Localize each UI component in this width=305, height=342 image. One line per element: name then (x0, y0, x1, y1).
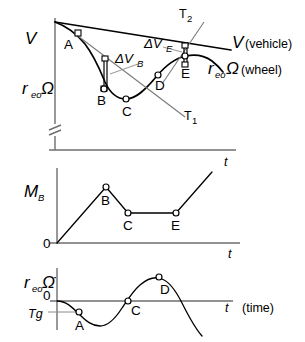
speed-label-A: A (64, 37, 73, 52)
tangent-label-T1-sub: 1 (192, 115, 197, 126)
legend-vehicle-symbol: V (232, 33, 245, 52)
delta-ve-label: ΔV (143, 36, 164, 51)
accel-y-label-r-sub: eo (32, 283, 43, 294)
speed-label-B: B (97, 93, 106, 108)
speed-point-E-marker (182, 53, 188, 59)
brake-torque-panel: M B 0 B C E t (24, 168, 240, 261)
speed-label-D: D (155, 78, 165, 93)
accel-label-A: A (75, 318, 84, 333)
tangent-label-T1: T (184, 109, 192, 123)
speed-point-B-marker (101, 86, 107, 92)
speed-y-label-omega: Ω (41, 79, 54, 98)
torque-point-B-marker (103, 184, 109, 190)
legend-vehicle-paren: (vehicle) (245, 37, 292, 51)
diagram-svg: V r eo Ω t A B C D E T 1 T 2 ΔV B ΔV E V… (0, 0, 305, 342)
torque-y-label-M: M (24, 182, 39, 201)
accel-zero-label: 0 (43, 288, 51, 303)
delta-ve-label-sub: E (166, 43, 173, 54)
speed-x-axis-label: t (224, 155, 228, 169)
speed-point-A-marker (75, 30, 81, 36)
accel-point-D-marker (156, 274, 162, 280)
tangent-label-T2: T (179, 7, 187, 21)
legend-wheel-omega: Ω (226, 59, 239, 78)
speed-y-label-V: V (25, 29, 38, 48)
figure-root: V r eo Ω t A B C D E T 1 T 2 ΔV B ΔV E V… (0, 0, 305, 342)
axis-break-mark-1 (49, 125, 61, 130)
speed-panel: V r eo Ω t A B C D E T 1 T 2 ΔV B ΔV E V… (22, 7, 292, 169)
tangent-label-T2-sub: 2 (187, 13, 192, 24)
torque-x-axis-label: t (228, 247, 232, 261)
torque-label-E: E (171, 218, 180, 233)
torque-origin-label: 0 (43, 236, 51, 251)
accel-x-axis-paren: (time) (242, 301, 274, 315)
brake-torque-line (57, 172, 212, 243)
speed-y-label-r: r (22, 79, 29, 98)
wheel-acceleration-panel: r eo Ω̇ 0 Tg A C D t (time) (24, 268, 274, 336)
accel-threshold-label: Tg (28, 307, 43, 321)
axis-break-mark-2 (49, 130, 61, 135)
legend-wheel-r-sub: eo (215, 69, 226, 80)
delta-ve-top-square (182, 43, 188, 48)
accel-y-label-r: r (24, 273, 31, 292)
speed-label-E: E (181, 66, 190, 81)
torque-label-B: B (101, 193, 110, 208)
torque-point-C-marker (125, 210, 131, 216)
speed-label-C: C (122, 104, 132, 119)
delta-vb-label: ΔV (114, 51, 135, 66)
legend-wheel-paren: (wheel) (241, 63, 282, 77)
delta-vb-top-square (102, 56, 108, 61)
speed-point-C-marker (123, 96, 129, 102)
accel-x-axis-label: t (225, 301, 229, 315)
accel-label-D: D (160, 282, 170, 297)
torque-point-E-marker (173, 210, 179, 216)
accel-point-A-marker (76, 309, 82, 315)
accel-label-C: C (131, 303, 141, 318)
delta-vb-label-sub: B (137, 58, 144, 69)
torque-label-C: C (123, 218, 133, 233)
speed-y-label-r-sub: eo (31, 89, 42, 100)
torque-y-label-M-sub: B (38, 192, 45, 203)
